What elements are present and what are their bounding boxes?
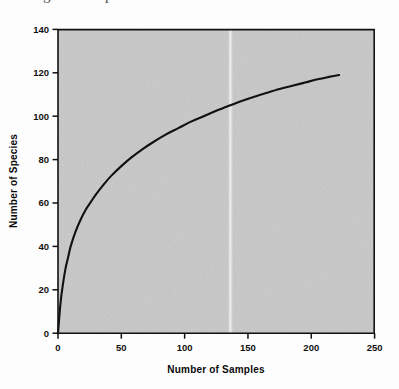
x-tick-label: 150 bbox=[240, 342, 256, 353]
x-tick-label: 250 bbox=[367, 342, 383, 353]
y-axis-ticks: 020406080100120140 bbox=[33, 24, 58, 339]
x-tick-label: 0 bbox=[55, 342, 60, 353]
y-tick-label: 40 bbox=[38, 241, 49, 252]
species-accumulation-chart: 020406080100120140 050100150200250 Numbe… bbox=[0, 0, 399, 389]
y-tick-label: 60 bbox=[38, 197, 49, 208]
y-tick-label: 100 bbox=[33, 111, 49, 122]
x-tick-label: 100 bbox=[177, 342, 193, 353]
y-axis-title: Number of Species bbox=[8, 134, 19, 228]
y-tick-label: 20 bbox=[38, 284, 49, 295]
y-tick-label: 140 bbox=[33, 24, 49, 35]
x-tick-label: 200 bbox=[303, 342, 319, 353]
x-axis-title: Number of Samples bbox=[167, 364, 265, 375]
vertical-scan-streak-artifact bbox=[228, 29, 233, 334]
x-tick-label: 50 bbox=[116, 342, 127, 353]
y-tick-label: 80 bbox=[38, 154, 49, 165]
y-tick-label: 0 bbox=[44, 328, 49, 339]
x-axis-ticks: 050100150200250 bbox=[55, 333, 382, 353]
y-tick-label: 120 bbox=[33, 67, 49, 78]
page-background: igure 5. Species accumulation curve bbox=[0, 0, 399, 389]
